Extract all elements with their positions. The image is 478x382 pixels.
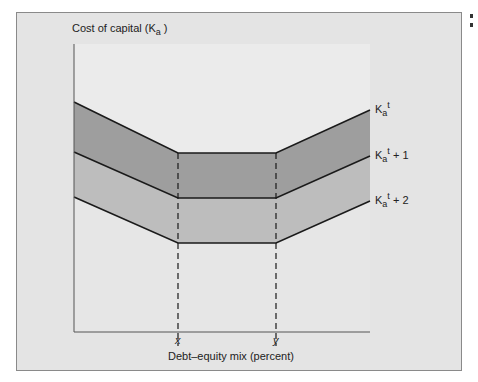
label-kat-plus-2: Kat + 2 [375, 191, 409, 209]
page-edge-mark [470, 14, 473, 18]
x-axis-label: Debt–equity mix (percent) [168, 350, 288, 362]
label-kat-plus-1: Kat + 1 [375, 146, 409, 164]
x-tick-y: y [273, 334, 279, 346]
label-kat: Kat [375, 100, 390, 118]
y-axis-label: Cost of capital (Ka ) [72, 22, 168, 37]
page-edge-mark [470, 23, 473, 27]
x-tick-x: x [175, 334, 181, 346]
